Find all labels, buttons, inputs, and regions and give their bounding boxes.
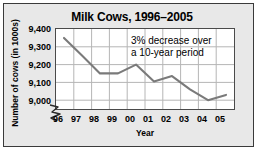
x-tick-label-98: 98: [84, 114, 104, 124]
annotation-line-1: 3% decrease over: [131, 35, 212, 47]
annotation-line-2: a 10-year period: [131, 47, 212, 59]
chart-annotation: 3% decrease over a 10-year period: [131, 35, 212, 59]
x-axis-title: Year: [55, 128, 235, 138]
x-tick-label-03: 03: [174, 114, 194, 124]
y-axis-title: Number of cows (in 1000s): [10, 18, 20, 128]
y-tick-label-9300: 9,300: [7, 42, 51, 52]
x-tick-label-99: 99: [102, 114, 122, 124]
chart-figure: Milk Cows, 1996–2005 Number of cows (in …: [3, 3, 254, 147]
x-tick-label-02: 02: [156, 114, 176, 124]
x-tick-label-05: 05: [210, 114, 230, 124]
x-tick-label-97: 97: [66, 114, 86, 124]
x-tick-label-01: 01: [138, 114, 158, 124]
y-tick-label-9100: 9,100: [7, 78, 51, 88]
y-tick-label-9000: 9,000: [7, 96, 51, 106]
y-tick-label-9200: 9,200: [7, 60, 51, 70]
y-tick-label-9400: 9,400: [7, 24, 51, 34]
x-tick-label-00: 00: [120, 114, 140, 124]
chart-title: Milk Cows, 1996–2005: [52, 10, 212, 24]
x-tick-label-04: 04: [192, 114, 212, 124]
x-tick-label-96: 96: [48, 114, 68, 124]
